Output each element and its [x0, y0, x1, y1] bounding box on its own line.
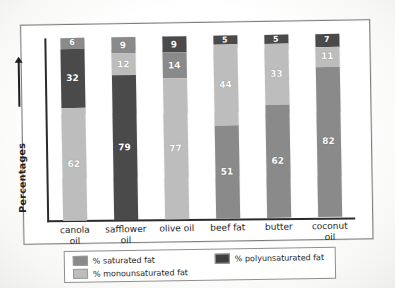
bar-segment-sat[interactable]: 62	[265, 104, 291, 218]
bar-segment-value: 14	[168, 61, 181, 70]
legend-swatch-sat	[73, 256, 88, 266]
legend-item[interactable]: % saturated fat	[73, 254, 188, 266]
x-axis-label-line1: canola	[49, 225, 100, 237]
x-axis-label-line1: coconut	[304, 221, 355, 233]
bar-segment-poly[interactable]: 32	[60, 49, 85, 108]
legend-item[interactable]: % polyunsaturated fat	[215, 252, 324, 264]
bar-slot: 54451	[199, 35, 253, 219]
bar-segment-sat[interactable]: 51	[214, 125, 239, 219]
bar-segment-value: 5	[273, 35, 279, 43]
bar-segment-value: 9	[120, 41, 126, 50]
legend-label: % polyunsaturated fat	[235, 253, 324, 263]
x-axis-label-line2: oil	[304, 232, 355, 244]
bar-segment-value: 77	[169, 144, 182, 153]
x-axis-label-line2: oil	[49, 236, 100, 248]
bar-segment-value: 5	[222, 36, 228, 44]
legend-swatch-poly	[215, 254, 230, 264]
bar-segment-value: 44	[219, 80, 232, 89]
bar-segment-value: 7	[324, 36, 330, 44]
x-axis-label-line1: safflower	[100, 224, 151, 236]
stacked-bar[interactable]: 63262	[60, 38, 87, 221]
legend-swatch-mono	[73, 269, 88, 279]
bar-segment-sat[interactable]: 14	[162, 53, 186, 79]
stacked-bar[interactable]: 91279	[111, 37, 138, 220]
x-axis-label-line1: butter	[253, 221, 304, 233]
bar-segment-poly[interactable]: 5	[213, 35, 237, 45]
legend-column-left: % saturated fat% monounsaturated fat	[73, 254, 188, 282]
bar-slot: 91477	[148, 36, 202, 220]
x-axis-label-line2: oil	[100, 235, 151, 247]
bar-slot: 63262	[46, 38, 100, 222]
bar-segment-mono[interactable]: 77	[162, 78, 188, 219]
bar-segment-value: 82	[322, 137, 335, 146]
bar-slot: 71182	[301, 34, 355, 218]
bar-slot: 91279	[97, 37, 151, 221]
bar-segment-sat[interactable]: 6	[60, 38, 84, 49]
y-axis-label: Percentages	[15, 143, 27, 213]
legend-label: % monounsaturated fat	[93, 268, 188, 278]
bar-segment-poly[interactable]: 5	[264, 35, 288, 45]
bar-segment-poly[interactable]: 9	[162, 36, 186, 53]
bar-segment-poly[interactable]: 79	[111, 75, 137, 220]
bar-segment-value: 11	[321, 52, 334, 61]
bar-segment-value: 62	[271, 156, 284, 165]
stacked-bar[interactable]: 91477	[162, 36, 189, 219]
bar-segment-value: 62	[67, 160, 80, 169]
bar-segment-mono[interactable]: 62	[61, 107, 87, 221]
legend-column-right: % polyunsaturated fat	[215, 252, 324, 267]
bar-segment-value: 12	[117, 60, 130, 69]
stacked-bar-chart-figure: Percentages 6326291279914775445153362711…	[0, 0, 395, 288]
stacked-bar[interactable]: 53362	[264, 35, 291, 218]
bar-segment-value: 6	[69, 39, 75, 47]
bar-segment-sat[interactable]: 9	[111, 37, 135, 54]
bar-segment-mono[interactable]: 12	[111, 53, 135, 75]
legend-item[interactable]: % monounsaturated fat	[73, 267, 188, 279]
bar-segment-value: 33	[270, 69, 283, 78]
y-axis-label-wrapper: Percentages	[7, 73, 35, 213]
bar-segment-poly[interactable]: 7	[315, 34, 339, 47]
x-axis-label-line1: olive oil	[151, 223, 202, 235]
stacked-bar[interactable]: 71182	[315, 34, 342, 217]
bar-slot: 53362	[250, 34, 304, 218]
bar-segment-mono[interactable]: 44	[213, 45, 238, 126]
bar-segment-value: 51	[221, 167, 234, 176]
bar-segment-value: 32	[66, 74, 79, 83]
bar-segment-value: 9	[171, 40, 177, 49]
bar-segment-mono[interactable]: 11	[315, 47, 339, 67]
legend-label: % saturated fat	[93, 255, 155, 265]
stacked-bar[interactable]: 54451	[213, 35, 240, 218]
bar-segment-mono[interactable]: 33	[264, 44, 289, 105]
chart-legend: % saturated fat% monounsaturated fat % p…	[64, 247, 336, 283]
bars-container: 632629127991477544515336271182	[46, 34, 355, 222]
x-axis-label-line1: beef fat	[202, 222, 253, 234]
bar-segment-sat[interactable]: 82	[315, 67, 341, 217]
bar-segment-value: 79	[118, 143, 131, 152]
